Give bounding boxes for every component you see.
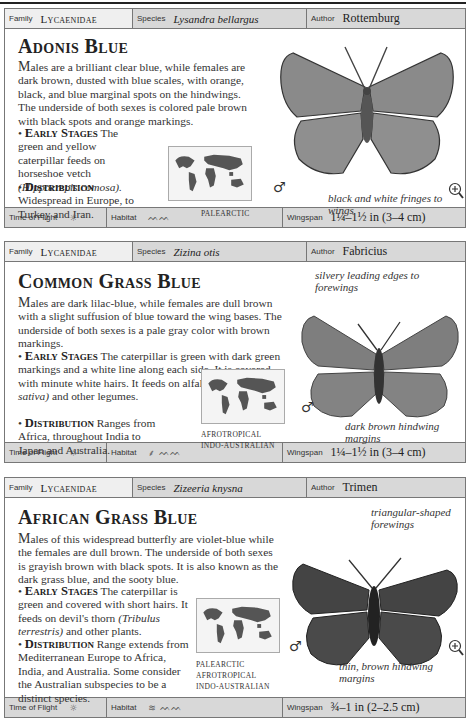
family-value: Lycaenidae xyxy=(41,482,97,494)
entry-african-grass-blue: Family Lycaenidae Species Zizeeria knysn… xyxy=(4,477,466,718)
entry-body: Common Grass Blue Males are dark lilac-b… xyxy=(5,262,465,442)
species-title: African Grass Blue xyxy=(18,506,198,529)
entry-body: Adonis Blue Males are a brilliant clear … xyxy=(5,29,465,207)
butterfly-image xyxy=(289,540,461,680)
world-map-icon xyxy=(197,599,279,652)
species-cell: Species Zizeeria knysna xyxy=(133,478,307,497)
world-map xyxy=(201,369,285,424)
species-value: Zizina otis xyxy=(173,246,219,258)
family-value: Lycaenidae xyxy=(41,246,97,258)
species-title: Adonis Blue xyxy=(18,35,128,58)
description: Males of this widespread butterfly are v… xyxy=(18,532,280,587)
family-cell: Family Lycaenidae xyxy=(5,9,133,28)
region-label-list: AFROTROPICAL INDO-AUSTRALIAN xyxy=(201,429,275,451)
species-title: Common Grass Blue xyxy=(18,270,201,293)
butterfly-illustration xyxy=(296,302,462,432)
region-label: PALEARCTIC xyxy=(201,208,250,219)
annotation-top: triangular-shaped forewings xyxy=(371,506,470,530)
annotation-bottom: dark brown hindwing margins xyxy=(345,420,455,444)
family-cell: Family Lycaenidae xyxy=(5,478,133,497)
author-value: Trimen xyxy=(343,480,378,495)
species-cell: Species Zizina otis xyxy=(133,242,307,261)
species-cell: Species Lysandra bellargus xyxy=(133,9,307,28)
annotation-bottom: thin, brown hindwing margins xyxy=(339,660,449,684)
wingspan-cell: Wingspan ¾–1 in (2–2.5 cm) xyxy=(283,698,465,717)
top-rule xyxy=(0,2,466,4)
author-cell: Author Trimen xyxy=(307,478,465,497)
entry-adonis-blue: Family Lycaenidae Species Lysandra bella… xyxy=(4,8,466,228)
world-map-icon xyxy=(202,370,284,423)
entry-common-grass-blue: Family Lycaenidae Species Zizina otis Au… xyxy=(4,241,466,463)
butterfly-illustration xyxy=(273,35,461,185)
region-label-list: PALEARCTIC AFROTROPICAL INDO-AUSTRALIAN xyxy=(196,659,270,692)
family-cell: Family Lycaenidae xyxy=(5,242,133,261)
world-map xyxy=(168,146,252,201)
entry-header: Family Lycaenidae Species Zizina otis Au… xyxy=(5,242,465,262)
entry-header: Family Lycaenidae Species Lysandra bella… xyxy=(5,9,465,29)
species-value: Lysandra bellargus xyxy=(173,13,258,25)
distribution: • Distribution Range extends from Medite… xyxy=(18,638,194,705)
author-value: Fabricius xyxy=(343,244,388,259)
world-map xyxy=(196,598,280,653)
male-symbol: ♂ xyxy=(273,179,286,195)
author-cell: Author Fabricius xyxy=(307,242,465,261)
entry-body: African Grass Blue Males of this widespr… xyxy=(5,498,465,697)
distribution: • Distribution Ranges from Africa, throu… xyxy=(18,417,168,457)
distribution: • Distribution Widespread in Europe, to … xyxy=(18,181,144,221)
annotation: black and white fringes to wings xyxy=(328,192,448,216)
family-value: Lycaenidae xyxy=(41,13,97,25)
butterfly-image xyxy=(296,302,462,432)
annotation-top: silvery leading edges to forewings xyxy=(315,269,435,293)
wingspan-value: 1¼–1½ in (3–4 cm) xyxy=(331,445,426,460)
author-cell: Author Rottemburg xyxy=(307,9,465,28)
early-stages: • Early Stages The caterpillar is green … xyxy=(18,585,194,639)
author-value: Rottemburg xyxy=(343,11,400,26)
species-value: Zizeeria knysna xyxy=(173,482,242,494)
butterfly-image xyxy=(273,35,461,185)
magnify-icon[interactable] xyxy=(448,639,464,657)
wingspan-value: ¾–1 in (2–2.5 cm) xyxy=(331,700,420,715)
wingspan-cell: Wingspan 1¼–1½ in (3–4 cm) xyxy=(283,443,465,462)
entry-header: Family Lycaenidae Species Zizeeria knysn… xyxy=(5,478,465,498)
world-map-icon xyxy=(169,147,251,200)
author-label: Author xyxy=(311,14,335,23)
description: Males are a brilliant clear blue, while … xyxy=(18,60,258,128)
male-symbol: ♂ xyxy=(289,638,302,654)
description: Males are dark lilac-blue, while females… xyxy=(18,296,288,351)
male-symbol: ♂ xyxy=(301,399,314,415)
family-label: Family xyxy=(9,14,33,23)
grassland-icon: ᨓᨓ xyxy=(148,212,170,223)
butterfly-illustration xyxy=(289,540,461,680)
magnify-icon[interactable] xyxy=(448,182,464,200)
species-label: Species xyxy=(137,14,165,23)
